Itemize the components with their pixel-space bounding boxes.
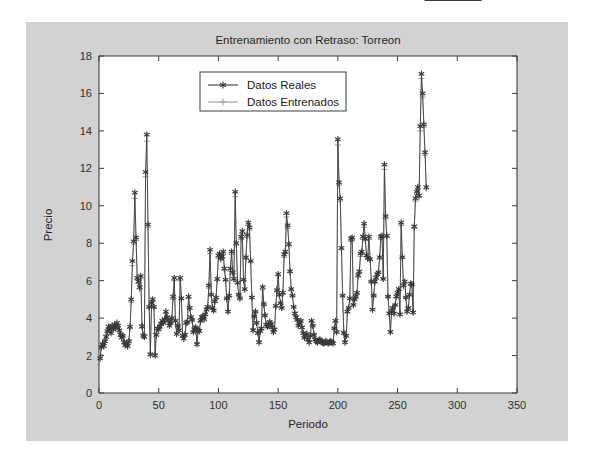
y-tick-label: 2 (86, 350, 92, 362)
y-tick-label: 4 (86, 312, 92, 324)
chart-plot: 024681012141618 050100150200250300350 En… (0, 0, 594, 462)
y-tick-label: 8 (86, 237, 92, 249)
x-tick-label: 250 (388, 399, 406, 411)
x-tick-label: 350 (508, 399, 526, 411)
legend-label: Datos Reales (247, 79, 316, 91)
x-tick-label: 0 (96, 399, 102, 411)
y-tick-label: 14 (80, 125, 92, 137)
x-tick-label: 50 (153, 399, 165, 411)
chart-title: Entrenamiento con Retraso: Torreon (215, 34, 400, 46)
y-tick-label: 12 (80, 162, 92, 174)
x-tick-label: 150 (269, 399, 287, 411)
x-tick-label: 200 (329, 399, 347, 411)
x-tick-label: 100 (209, 399, 227, 411)
x-tick-label: 300 (448, 399, 466, 411)
y-tick-label: 16 (80, 87, 92, 99)
legend-label: Datos Entrenados (247, 96, 339, 108)
figure-root: 024681012141618 050100150200250300350 En… (0, 0, 594, 462)
y-tick-label: 10 (80, 200, 92, 212)
x-axis-label: Periodo (288, 418, 328, 430)
y-axis-label: Precio (42, 209, 54, 242)
chart-legend[interactable]: Datos RealesDatos Entrenados (200, 72, 346, 111)
y-tick-label: 0 (86, 387, 92, 399)
y-tick-label: 18 (80, 50, 92, 62)
y-tick-label: 6 (86, 275, 92, 287)
